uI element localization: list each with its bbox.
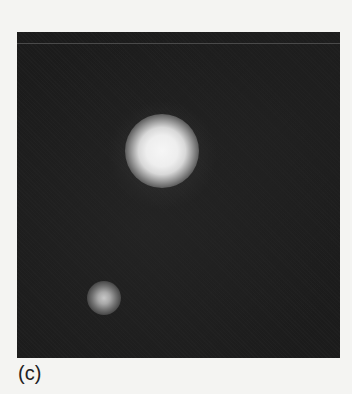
small-dim-spot	[87, 281, 121, 315]
panel-label: (c)	[18, 363, 41, 383]
image-top-artifact-line	[17, 43, 340, 44]
large-bright-spot	[125, 114, 199, 188]
microscopy-image-panel	[17, 32, 340, 358]
